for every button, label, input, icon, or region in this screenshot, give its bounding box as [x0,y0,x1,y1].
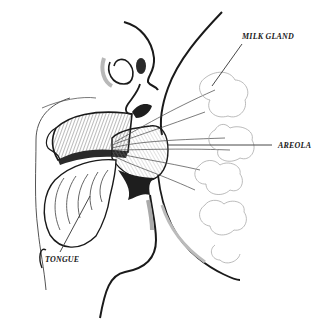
nose-hatch [102,58,112,86]
milk-gland-lobules [195,72,254,263]
baby-nose [124,22,158,90]
cheek-contour [42,97,96,108]
areola-label: AREOLA [278,141,311,150]
tongue-label: TONGUE [45,255,79,264]
lower-jaw [100,195,156,318]
upper-lip-shadow [132,104,152,118]
breast-lower-shading [162,205,205,262]
breast-lower-outline [158,175,240,280]
milk-gland-leader [212,44,242,86]
baby-nostril [109,59,133,84]
nostril-shading [136,58,146,74]
breastfeeding-diagram [0,0,322,324]
milk-gland-label: MILK GLAND [242,32,294,41]
